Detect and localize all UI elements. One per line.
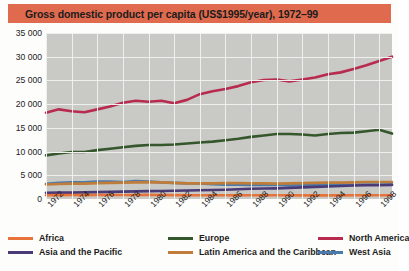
plot-area	[46, 33, 392, 199]
y-axis-tick-label: 35 000	[16, 28, 42, 38]
legend-item[interactable]: Latin America and the Caribbean	[168, 246, 336, 258]
legend-label: Asia and the Pacific	[39, 247, 122, 257]
gridline-vertical	[225, 33, 226, 199]
legend-label: Europe	[199, 233, 229, 243]
y-axis-tick-label: 5 000	[20, 170, 42, 180]
gridline-vertical	[200, 33, 201, 199]
gridline-vertical	[354, 33, 355, 199]
legend-label: West Asia	[349, 247, 391, 257]
y-axis-tick-label: 20 000	[16, 99, 42, 109]
gridline-vertical	[379, 33, 380, 199]
y-axis-tick-label: 30 000	[16, 52, 42, 62]
page-title: Gross domestic product per capita (US$19…	[8, 8, 318, 20]
gridline-vertical	[277, 33, 278, 199]
legend-swatch-icon	[8, 237, 33, 240]
y-axis-tick-labels: 05 00010 00015 00020 00025 00030 00035 0…	[0, 33, 42, 199]
legend-swatch-icon	[168, 237, 193, 240]
gridline-vertical	[328, 33, 329, 199]
legend-label: North America	[349, 233, 409, 243]
legend-label: Africa	[39, 233, 64, 243]
gridline-vertical	[46, 33, 47, 199]
gridline-vertical	[72, 33, 73, 199]
gridline-vertical	[174, 33, 175, 199]
legend-swatch-icon	[318, 237, 343, 240]
legend-swatch-icon	[8, 251, 33, 254]
legend-item[interactable]: Europe	[168, 232, 229, 244]
legend-item[interactable]: North America	[318, 232, 409, 244]
legend-swatch-icon	[168, 251, 193, 254]
gridline-vertical	[123, 33, 124, 199]
plot-wrapper: 05 00010 00015 00020 00025 00030 00035 0…	[0, 28, 399, 228]
y-axis-tick-label: 15 000	[16, 123, 42, 133]
legend-label: Latin America and the Caribbean	[199, 247, 336, 257]
gridline-vertical	[149, 33, 150, 199]
y-axis-tick-label: 25 000	[16, 75, 42, 85]
y-axis-tick-label: 0	[37, 194, 42, 204]
chart-legend: AfricaEuropeNorth AmericaAsia and the Pa…	[8, 232, 396, 260]
y-axis-tick-label: 10 000	[16, 147, 42, 157]
legend-item[interactable]: West Asia	[318, 246, 391, 258]
x-axis-tick-labels: 1972197419761978198019821984198619881990…	[46, 200, 392, 228]
legend-item[interactable]: Africa	[8, 232, 64, 244]
gridline-vertical	[302, 33, 303, 199]
chart-title-bar: Gross domestic product per capita (US$19…	[8, 4, 391, 23]
legend-swatch-icon	[318, 251, 343, 254]
legend-item[interactable]: Asia and the Pacific	[8, 246, 122, 258]
gridline-vertical	[97, 33, 98, 199]
gridline-vertical	[251, 33, 252, 199]
